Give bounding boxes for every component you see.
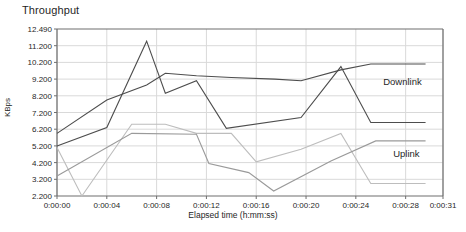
svg-text:0:00:08: 0:00:08 xyxy=(143,201,170,210)
svg-text:3.200: 3.200 xyxy=(32,175,53,184)
throughput-chart: Throughput KBps 12.49011.20010.2009.2008… xyxy=(0,0,466,232)
grid-lines xyxy=(57,29,443,196)
svg-text:0:00:00: 0:00:00 xyxy=(44,201,71,210)
svg-text:0:00:28: 0:00:28 xyxy=(392,201,419,210)
svg-text:0:00:12: 0:00:12 xyxy=(193,201,220,210)
y-tick-labels: 12.49011.20010.2009.2008.2007.2006.2005.… xyxy=(28,25,57,201)
svg-text:5.200: 5.200 xyxy=(32,142,53,151)
svg-text:2.200: 2.200 xyxy=(32,192,53,201)
svg-text:11.200: 11.200 xyxy=(28,42,52,51)
x-tick-labels: 0:00:000:00:040:00:080:00:120:00:160:00:… xyxy=(44,196,457,210)
svg-text:9.200: 9.200 xyxy=(32,75,53,84)
data-series xyxy=(57,41,426,196)
svg-text:Uplink: Uplink xyxy=(393,148,420,159)
svg-text:0:00:04: 0:00:04 xyxy=(93,201,120,210)
svg-text:Downlink: Downlink xyxy=(383,76,422,87)
svg-text:0:00:31: 0:00:31 xyxy=(430,201,457,210)
x-axis-title: Elapsed time (h:mm:ss) xyxy=(0,210,466,220)
svg-text:7.200: 7.200 xyxy=(32,109,53,118)
svg-text:4.200: 4.200 xyxy=(32,159,53,168)
svg-text:0:00:20: 0:00:20 xyxy=(293,201,320,210)
svg-text:0:00:16: 0:00:16 xyxy=(243,201,270,210)
svg-text:0:00:24: 0:00:24 xyxy=(342,201,369,210)
svg-text:12.490: 12.490 xyxy=(28,25,53,34)
svg-text:10.200: 10.200 xyxy=(28,58,53,67)
svg-text:8.200: 8.200 xyxy=(32,92,53,101)
svg-text:6.200: 6.200 xyxy=(32,125,53,134)
plot-area: 12.49011.20010.2009.2008.2007.2006.2005.… xyxy=(0,0,466,232)
